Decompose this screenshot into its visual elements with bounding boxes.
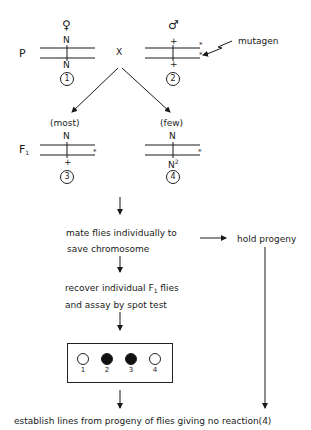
step-mate-line1: mate flies individually to — [66, 228, 177, 238]
female-bottom-allele: N — [63, 60, 70, 70]
most-label: (most) — [50, 118, 80, 128]
well-label-3: 3 — [126, 366, 136, 374]
parent-number-2: 2 — [166, 72, 180, 86]
female-symbol-icon: ♀ — [62, 20, 71, 30]
step-mate-line2: save chromosome — [67, 244, 149, 254]
well-label-4: 4 — [150, 366, 160, 374]
most-bottom-allele: + — [64, 157, 72, 167]
step-hold-progeny: hold progeny — [237, 234, 296, 244]
cross-symbol: X — [116, 47, 122, 57]
svg-text:*: * — [199, 51, 203, 59]
well-1-negative — [77, 353, 89, 365]
step-establish-lines: establish lines from progeny of flies gi… — [14, 416, 271, 426]
male-top-allele: + — [170, 36, 178, 46]
few-top-allele: N — [169, 131, 176, 141]
spot-test-plate: 1 2 3 4 — [67, 343, 173, 383]
step-recover-line2: and assay by spot test — [65, 300, 167, 310]
parent-number-1: 1 — [60, 72, 74, 86]
well-label-2: 2 — [102, 366, 112, 374]
female-top-allele: N — [63, 35, 70, 45]
svg-text:*: * — [93, 148, 97, 156]
generation-label-f1: F1 — [19, 145, 29, 158]
mutagen-label: mutagen — [238, 36, 278, 46]
offspring-number-3: 3 — [60, 170, 74, 184]
svg-text:*: * — [199, 41, 203, 49]
male-symbol-icon: ♂ — [168, 20, 179, 30]
svg-text:*: * — [198, 148, 202, 156]
well-4-negative — [149, 353, 161, 365]
step-recover-line1: recover individual F1 flies — [65, 283, 179, 296]
male-bottom-allele: + — [170, 59, 178, 69]
well-2-positive — [101, 353, 113, 365]
most-top-allele: N — [63, 131, 70, 141]
generation-label-p: P — [19, 49, 26, 59]
few-label: (few) — [160, 118, 183, 128]
well-label-1: 1 — [78, 366, 88, 374]
well-3-positive — [125, 353, 137, 365]
few-bottom-allele: N2 — [168, 157, 179, 170]
offspring-number-4: 4 — [166, 170, 180, 184]
